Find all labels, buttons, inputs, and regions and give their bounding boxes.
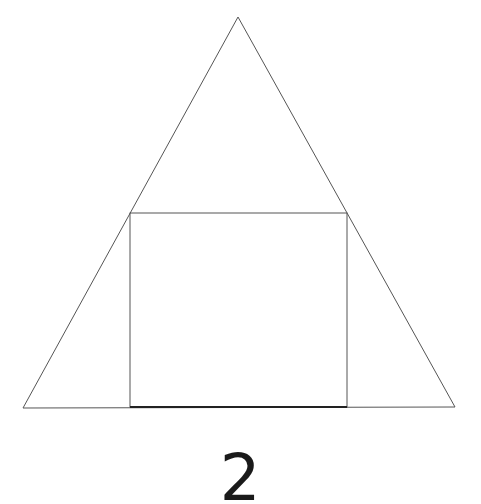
figure-label: 2 bbox=[200, 446, 280, 504]
inscribed-square bbox=[130, 213, 347, 407]
